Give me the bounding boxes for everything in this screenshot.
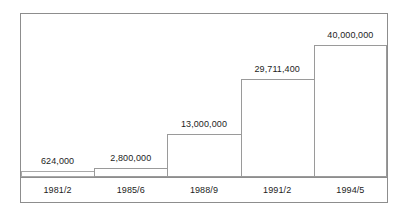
bar-1994-5[interactable] [314, 45, 387, 177]
category-label-1981-2: 1981/2 [21, 184, 94, 196]
category-axis-line [21, 177, 387, 178]
category-label-1988-9: 1988/9 [167, 184, 240, 196]
value-label-1991-2: 29,711,400 [241, 64, 314, 75]
value-label-1981-2: 624,000 [21, 156, 94, 167]
value-label-1994-5: 40,000,000 [314, 30, 387, 41]
bar-1991-2[interactable] [241, 79, 315, 177]
category-label-1985-6: 1985/6 [94, 184, 167, 196]
bar-chart: 624,000 2,800,000 13,000,000 29,711,400 … [0, 0, 408, 218]
bar-1985-6[interactable] [94, 168, 168, 177]
value-label-1985-6: 2,800,000 [94, 153, 167, 164]
category-label-1991-2: 1991/2 [241, 184, 314, 196]
category-label-1994-5: 1994/5 [314, 184, 387, 196]
bar-1988-9[interactable] [167, 134, 241, 177]
value-label-1988-9: 13,000,000 [167, 119, 240, 130]
